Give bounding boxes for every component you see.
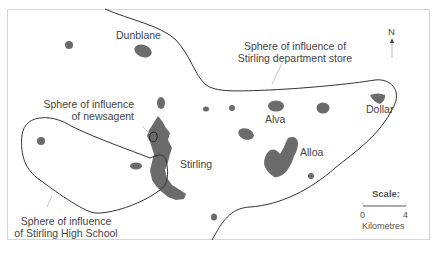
settlement-dot [130, 163, 142, 170]
town-label-alva: Alva [265, 113, 285, 125]
settlements [37, 41, 385, 221]
sphere-label-department-store-line1: Sphere of influence of [230, 40, 360, 52]
town-label-dunblane: Dunblane [116, 29, 161, 41]
settlement-dot [65, 41, 73, 49]
scale-title: Scale: [372, 188, 400, 199]
town-label-dollar: Dollar [366, 103, 393, 115]
leader-line-department-store [272, 63, 282, 84]
sphere-label-high-school-line2: of Stirling High School [8, 227, 124, 239]
settlement-dunblane [132, 42, 153, 59]
leader-line-high-school [47, 196, 52, 207]
settlement-dot [157, 97, 165, 109]
settlement-alva [268, 101, 284, 112]
sphere-label-newsagent-line1: Sphere of influence [30, 98, 134, 110]
scale-unit-label: Kilometres [362, 221, 405, 231]
town-label-stirling: Stirling [180, 158, 212, 170]
sphere-label-department-store-line2: Stirling department store [230, 52, 360, 64]
settlement-alloa [264, 137, 298, 177]
settlement-dot [237, 126, 256, 142]
scale-max-label: 4 [403, 210, 408, 220]
scale-min-label: 0 [360, 210, 365, 220]
sphere-label-department-store: Sphere of influence of Stirling departme… [230, 40, 360, 64]
settlement-dot [229, 105, 235, 111]
north-arrow-head-icon [390, 38, 394, 43]
settlement-dot [211, 214, 217, 221]
sphere-label-high-school: Sphere of influence of Stirling High Sch… [8, 215, 124, 239]
settlement-dot [203, 107, 209, 112]
north-label: N [388, 26, 395, 37]
sphere-label-newsagent-line2: of newsagent [30, 110, 134, 122]
sphere-label-high-school-line1: Sphere of influence [8, 215, 124, 227]
sphere-boundary-high-school [22, 118, 168, 213]
leader-line-newsagent [142, 126, 150, 134]
sphere-label-newsagent: Sphere of influence of newsagent [30, 98, 134, 122]
town-label-alloa: Alloa [300, 146, 323, 158]
settlement-dot [317, 103, 330, 114]
settlement-dot [308, 173, 314, 179]
settlement-dot [37, 137, 45, 145]
